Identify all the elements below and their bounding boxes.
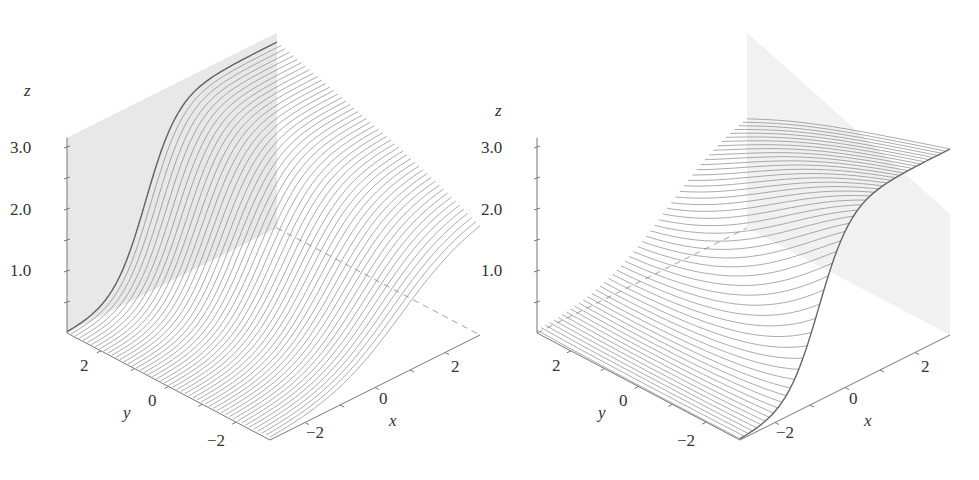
surface-plot-right: z y x 3.0 2.0 1.0 2 0 −2 −2 0 2	[481, 33, 950, 450]
z-tick-label: 3.0	[481, 138, 502, 157]
z-tick-label: 1.0	[10, 261, 31, 280]
z-tick-label: 1.0	[481, 261, 502, 280]
x-tick-label: 0	[379, 389, 388, 408]
y-tick-label: 0	[619, 391, 628, 410]
x-axis-title: x	[863, 411, 872, 430]
back-walls	[747, 33, 950, 335]
surface-plot-left: z y x 3.0 2.0 1.0 2 0 −2 −2 0 2	[10, 33, 480, 450]
y-tick-label: −2	[677, 431, 695, 450]
y-axis-title: y	[596, 403, 606, 422]
x-tick-label: 2	[451, 357, 460, 376]
y-tick-label: 2	[80, 356, 89, 375]
z-axis-title: z	[23, 81, 31, 100]
y-tick-label: 0	[148, 391, 157, 410]
z-tick-label: 2.0	[481, 200, 502, 219]
x-tick-label: 0	[849, 389, 858, 408]
x-tick-label: 2	[921, 357, 930, 376]
z-tick-label: 3.0	[10, 138, 31, 157]
x-tick-label: −2	[306, 423, 324, 442]
z-tick-label: 2.0	[10, 200, 31, 219]
x-axis-title: x	[388, 411, 397, 430]
y-axis-title: y	[121, 403, 131, 422]
x-tick-label: −2	[776, 423, 794, 442]
y-tick-label: −2	[207, 431, 225, 450]
y-tick-label: 2	[552, 356, 561, 375]
z-axis-title: z	[494, 101, 502, 120]
